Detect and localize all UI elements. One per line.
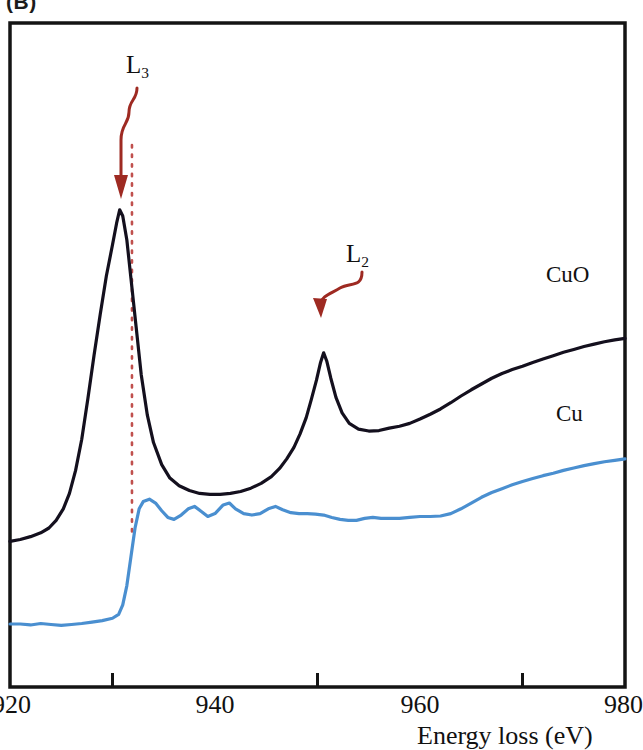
peak-label-l2-text: L bbox=[346, 240, 361, 267]
x-tick-label: 920 bbox=[0, 692, 31, 718]
peak-label-l3-sub: 3 bbox=[141, 64, 149, 81]
x-tick-label: 960 bbox=[401, 692, 440, 718]
peak-label-l2: L2 bbox=[346, 241, 369, 266]
plot-frame bbox=[10, 23, 625, 687]
peak-label-l3: L3 bbox=[126, 52, 149, 77]
x-tick-label: 980 bbox=[604, 692, 643, 718]
peak-label-l2-sub: 2 bbox=[361, 253, 369, 270]
series-label-cu: Cu bbox=[556, 402, 583, 425]
x-tick-label: 940 bbox=[196, 692, 235, 718]
peak-label-l3-text: L bbox=[126, 51, 141, 78]
x-axis-title: Energy loss (eV) bbox=[417, 723, 593, 749]
series-label-cuo: CuO bbox=[546, 263, 589, 286]
